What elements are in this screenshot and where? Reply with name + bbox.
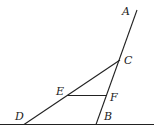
line-ab [96,10,137,125]
label-f: F [109,91,118,104]
label-a: A [121,5,130,18]
label-d: D [14,110,24,123]
label-b: B [103,110,112,123]
geometry-diagram: A C E F D B [0,0,154,134]
label-c: C [124,54,133,67]
label-e: E [55,85,64,98]
